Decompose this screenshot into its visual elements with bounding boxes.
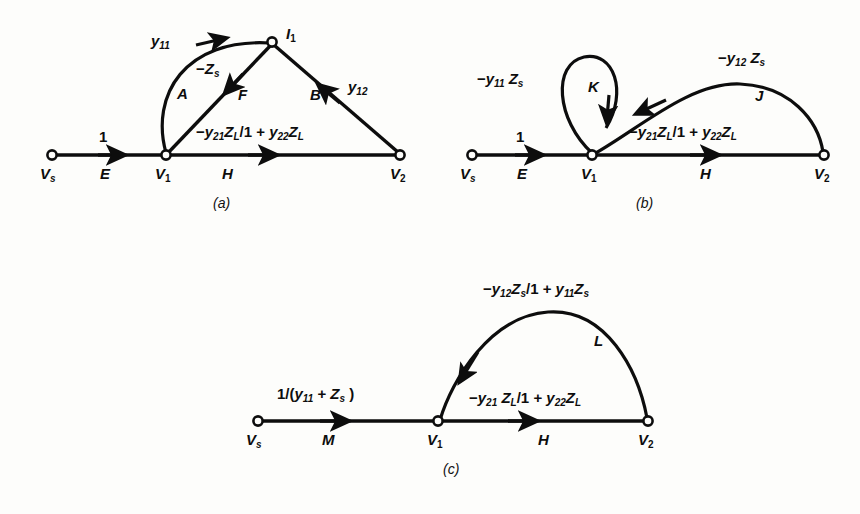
gain-label-b-E: 1 <box>516 129 524 144</box>
gain-label-c-M: 1/(y11 + Zs ) <box>277 386 354 404</box>
node-a-Vs <box>47 150 56 159</box>
gain-label-a-E: 1 <box>99 129 107 144</box>
branch-letter-c-M: M <box>322 432 335 447</box>
figure-canvas: Vs V1 V2 I1 1 E y11 A −Zs F y12 B −y21ZL… <box>0 0 860 514</box>
node-c-V1 <box>433 416 442 425</box>
node-a-I1 <box>267 37 276 46</box>
branch-letter-a-A: A <box>177 86 188 101</box>
panel-c-graph <box>253 312 652 426</box>
branch-letter-a-H: H <box>222 166 233 181</box>
gain-label-b-J: −y12 Zs <box>718 50 765 68</box>
node-label-a-V1: V1 <box>155 166 171 184</box>
node-c-V2 <box>643 416 652 425</box>
branch-letter-c-H: H <box>538 432 549 447</box>
gain-label-c-L: −y12Zs/1 + y11Zs <box>483 281 589 299</box>
branch-b-K-arrow <box>607 95 609 118</box>
branch-letter-b-E: E <box>517 166 527 181</box>
node-b-V1 <box>587 150 596 159</box>
node-label-c-V1: V1 <box>427 432 443 450</box>
gain-label-b-K: −y11 Zs <box>477 71 523 89</box>
node-label-a-V2: V2 <box>390 166 406 184</box>
panel-caption-c: (c) <box>443 462 459 476</box>
branch-letter-b-J: J <box>755 88 763 103</box>
node-label-c-Vs: Vs <box>246 432 262 450</box>
branch-letter-b-K: K <box>588 79 599 94</box>
gain-label-a-B: y12 <box>348 79 367 97</box>
branch-letter-a-B: B <box>310 87 321 102</box>
gain-label-b-H: −y21ZL/1 + y22ZL <box>629 124 737 142</box>
branch-c-L-arrow <box>462 352 478 378</box>
node-c-Vs <box>253 416 262 425</box>
node-label-b-V2: V2 <box>814 166 830 184</box>
node-label-a-Vs: Vs <box>40 166 56 184</box>
gain-label-a-A: y11 <box>151 33 170 51</box>
node-label-c-V2: V2 <box>638 432 654 450</box>
branch-letter-a-F: F <box>238 87 247 102</box>
node-b-V2 <box>819 150 828 159</box>
node-label-b-Vs: Vs <box>460 166 476 184</box>
branch-letter-a-E: E <box>100 166 110 181</box>
node-label-a-I1: I1 <box>286 26 296 44</box>
node-label-b-V1: V1 <box>581 166 597 184</box>
panel-caption-b: (b) <box>636 196 653 210</box>
branch-a-A-arrow <box>196 39 222 45</box>
node-a-V2 <box>395 150 404 159</box>
node-b-Vs <box>467 150 476 159</box>
branch-letter-b-H: H <box>700 166 711 181</box>
gain-label-a-F: −Zs <box>196 61 220 79</box>
gain-label-a-H: −y21ZL/1 + y22ZL <box>196 124 304 142</box>
branch-b-J-arc <box>594 84 823 154</box>
panel-caption-a: (a) <box>213 196 230 210</box>
branch-a-B-arrow <box>322 88 340 103</box>
gain-label-c-H: −y21 ZL/1 + y22ZL <box>469 390 581 408</box>
node-a-V1 <box>161 150 170 159</box>
branch-letter-c-L: L <box>594 333 603 348</box>
